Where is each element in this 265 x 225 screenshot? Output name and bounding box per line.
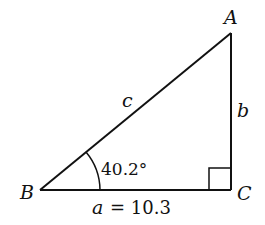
side-value-a: = 10.3 <box>110 197 171 218</box>
side-label-a: a <box>92 196 103 218</box>
right-angle-marker <box>209 168 231 190</box>
side-label-b: b <box>237 99 249 121</box>
vertex-label-b: B <box>19 181 34 203</box>
vertex-label-a: A <box>222 6 238 28</box>
triangle-diagram: A B C c b a = 10.3 40.2° <box>0 0 265 225</box>
side-label-c: c <box>122 89 133 111</box>
vertex-label-c: C <box>237 182 252 204</box>
angle-label-b: 40.2° <box>101 159 147 179</box>
angle-arc-b <box>86 152 100 190</box>
